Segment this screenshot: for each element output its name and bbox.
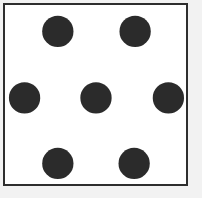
pattern-dot-center	[80, 82, 111, 113]
pattern-dot-top-right	[119, 16, 150, 47]
pattern-dot-top-left	[42, 16, 73, 47]
pattern-frame	[3, 3, 188, 186]
dot-layer	[5, 5, 186, 184]
pattern-dot-middle-right	[153, 82, 184, 113]
pattern-dot-bottom-left	[42, 148, 73, 179]
pattern-dot-bottom-right	[118, 148, 149, 179]
figure-canvas	[0, 0, 202, 198]
pattern-dot-middle-left	[9, 82, 40, 113]
